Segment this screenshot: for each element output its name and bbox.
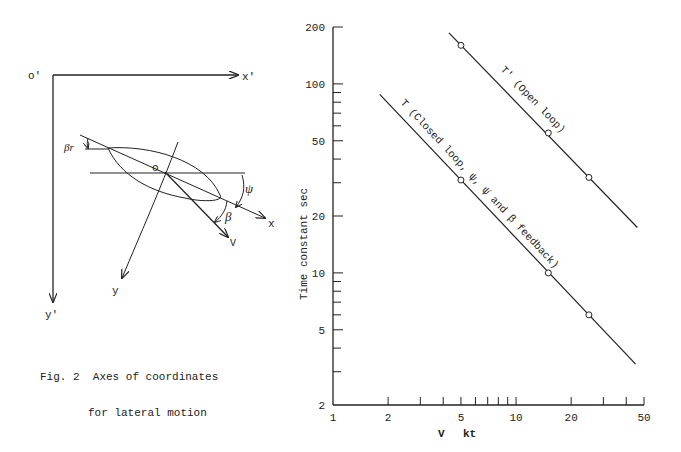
y-axis-label: Time constant sec — [298, 188, 310, 300]
y-tick-label: 5 — [318, 325, 325, 337]
curve-label-open: T' (Open loop) — [498, 64, 568, 136]
x-tick-label: 10 — [509, 412, 522, 424]
data-point — [458, 42, 464, 48]
x-axis-unit: kt — [463, 428, 476, 440]
series-line-0 — [449, 33, 637, 228]
data-point — [586, 174, 592, 180]
x-tick-label: 50 — [637, 412, 650, 424]
x-axis-symbol: V — [438, 428, 445, 440]
time-constant-chart: 25102050100200 125102050 Time constant s… — [0, 0, 681, 452]
x-tick-labels: 125102050 — [330, 412, 651, 424]
x-ticks — [388, 397, 644, 405]
x-tick-label: 5 — [458, 412, 465, 424]
data-point — [458, 177, 464, 183]
x-tick-label: 2 — [385, 412, 392, 424]
x-tick-label: 20 — [565, 412, 578, 424]
data-point — [586, 312, 592, 318]
y-tick-label: 10 — [312, 268, 325, 280]
y-tick-label: 20 — [312, 211, 325, 223]
y-tick-label: 200 — [305, 22, 325, 34]
data-point — [545, 270, 551, 276]
y-ticks — [333, 27, 343, 372]
y-tick-label: 100 — [305, 79, 325, 91]
y-tick-label: 2 — [318, 400, 325, 412]
x-tick-label: 1 — [330, 412, 337, 424]
series-line-1 — [380, 94, 636, 364]
y-tick-label: 50 — [312, 136, 325, 148]
data-point — [545, 130, 551, 136]
